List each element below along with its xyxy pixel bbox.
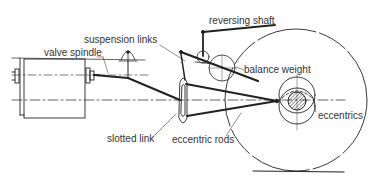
label-eccentrics: eccentrics (318, 110, 363, 121)
label-reversing-shaft: reversing shaft (209, 15, 275, 26)
balance-weight (209, 55, 235, 81)
label-slotted-link: slotted link (107, 133, 155, 144)
eccentric-rod-upper (186, 84, 277, 101)
valve-gear-diagram: reversing shaft suspension links valve s… (0, 0, 379, 185)
eccentric-rod-lower (187, 101, 277, 116)
label-eccentric-rods: eccentric rods (172, 134, 234, 145)
axle-hub (288, 92, 306, 110)
suspension-bracket-left (119, 51, 137, 62)
radius-rod (128, 78, 180, 100)
valve-chest (12, 58, 100, 118)
label-balance-weight: balance weight (244, 64, 311, 75)
leader-balance-weight (236, 67, 244, 70)
rail (253, 171, 344, 172)
valve-spindle (94, 75, 128, 78)
leader-eccentric-rods (226, 113, 241, 136)
suspension-link (181, 54, 185, 80)
reversing-shaft-lever (203, 25, 275, 32)
label-suspension-links: suspension links (84, 34, 157, 45)
label-valve-spindle: valve spindle (44, 47, 102, 58)
